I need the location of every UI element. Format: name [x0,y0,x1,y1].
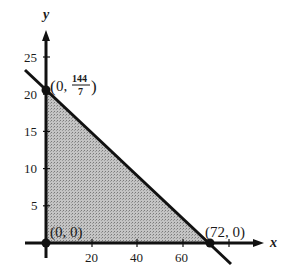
y-tick-25: 25 [24,50,37,65]
vertex-origin-label: (0, 0) [50,224,83,241]
x-axis-arrow-icon [253,239,264,247]
vertex-y-frac-denominator: 7 [78,86,83,97]
y-tick-10: 10 [24,161,37,176]
x-tick-40: 40 [130,250,143,265]
x-tick-60: 60 [175,250,188,265]
vertex-y-label-prefix: 0, [56,78,67,94]
y-axis-label: y [41,7,50,22]
y-tick-20: 20 [24,87,37,102]
x-axis-label: x [269,235,277,250]
y-tick-15: 15 [24,124,37,139]
x-tick-20: 20 [85,250,98,265]
vertex-x-intercept-label: (72, 0) [205,224,245,241]
y-axis-arrow-icon [42,30,50,41]
svg-text:): ) [91,77,97,96]
y-tick-5: 5 [31,198,38,213]
chart-canvas: y x 5 10 15 20 25 20 40 60 (0, 0) (72, 0… [0,0,290,275]
vertex-y-intercept-label: ( 0, 144 7 ) [50,73,97,97]
vertex-y-frac-numerator: 144 [72,73,87,84]
